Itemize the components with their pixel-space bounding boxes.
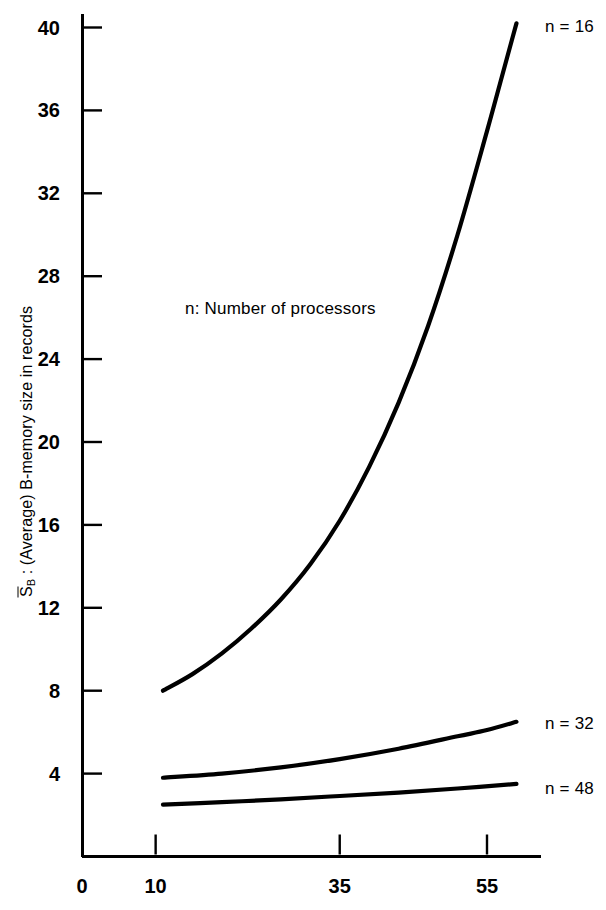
- series-label: n = 32: [545, 715, 594, 732]
- x-axis-tick-label: 55: [464, 876, 510, 896]
- y-axis-title-rest: : (Average) B-memory size in records: [18, 306, 35, 579]
- y-axis-tick-label: 40: [14, 18, 60, 38]
- x-axis-tick-label: 0: [59, 876, 105, 896]
- y-axis-title-subscript: B: [25, 579, 37, 586]
- series-curve: [163, 722, 516, 778]
- series-curve: [163, 784, 516, 805]
- x-axis-tick-label: 10: [133, 876, 179, 896]
- series-curve: [163, 23, 516, 690]
- y-axis-ticks: [84, 28, 102, 774]
- series-label: n = 48: [545, 780, 594, 797]
- y-axis-tick-label: 8: [14, 681, 60, 701]
- chart-figure: 481216202428323640 0103555 n = 16n = 32n…: [0, 0, 606, 910]
- chart-plot-area: [0, 0, 606, 910]
- x-axis-tick-label: 35: [317, 876, 363, 896]
- y-axis-tick-label: 32: [14, 183, 60, 203]
- y-axis-tick-label: 36: [14, 100, 60, 120]
- y-axis-title: SB : (Average) B-memory size in records: [18, 242, 37, 662]
- chart-annotation: n: Number of processors: [185, 300, 376, 317]
- y-axis-title-symbol: S: [18, 586, 35, 597]
- y-axis-tick-label: 4: [14, 764, 60, 784]
- axes: [82, 14, 541, 857]
- data-series-group: [163, 23, 516, 804]
- x-axis-ticks: [156, 835, 487, 855]
- series-label: n = 16: [545, 18, 594, 35]
